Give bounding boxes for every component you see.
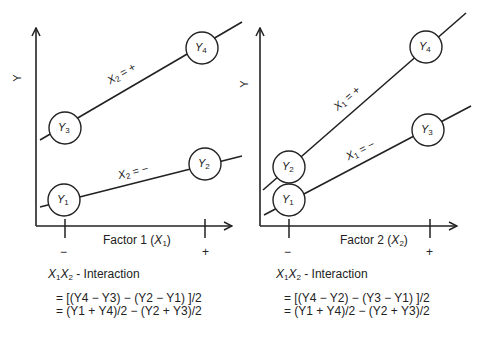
interaction-text: - Interaction bbox=[301, 267, 368, 281]
left-x-axis-label: Factor 1 (X1) bbox=[103, 233, 171, 248]
left-point-y3-label: Y3 bbox=[58, 121, 70, 135]
left-tick-plus-label: + bbox=[202, 245, 209, 259]
right-x-axis-label: Factor 2 (X2) bbox=[340, 233, 408, 248]
left-y-axis-label: Y bbox=[11, 74, 23, 81]
right-point-y1-label: Y1 bbox=[282, 193, 294, 207]
left-equation-1: = [(Y4 − Y3) − (Y2 − Y1) ]/2 bbox=[56, 291, 202, 305]
left-interaction-title: X1X2 - Interaction bbox=[48, 267, 140, 285]
x1-var: X bbox=[48, 267, 56, 281]
y-sub: 3 bbox=[428, 128, 432, 137]
y-sub: 1 bbox=[64, 198, 68, 207]
right-interaction-title: X1X2 - Interaction bbox=[276, 267, 368, 285]
y-sub: 1 bbox=[289, 198, 293, 207]
left-equation-2: = (Y1 + Y4)/2 − (Y2 + Y3)/2 bbox=[56, 304, 202, 318]
left-point-y2-label: Y2 bbox=[198, 157, 210, 171]
x-label-suffix: ) bbox=[404, 233, 408, 247]
x1-var: X bbox=[276, 267, 284, 281]
right-point-y2-label: Y2 bbox=[282, 160, 294, 174]
x-label-suffix: ) bbox=[167, 233, 171, 247]
x-label-prefix: Factor 1 ( bbox=[103, 233, 154, 247]
right-equation-2: = (Y1 + Y4)/2 − (Y2 + Y3)/2 bbox=[284, 304, 430, 318]
y-sub: 4 bbox=[202, 46, 206, 55]
interaction-text: - Interaction bbox=[73, 267, 140, 281]
left-tick-minus-label: − bbox=[60, 245, 67, 259]
y-sub: 2 bbox=[205, 162, 209, 171]
right-y-axis-label: Y bbox=[238, 80, 250, 87]
right-tick-minus-label: − bbox=[284, 245, 291, 259]
y-sub: 4 bbox=[426, 45, 430, 54]
interaction-plots bbox=[0, 0, 485, 339]
right-point-y4-label: Y4 bbox=[419, 40, 431, 54]
right-equation-1: = [(Y4 − Y2) − (Y3 − Y1) ]/2 bbox=[284, 291, 430, 305]
right-tick-plus-label: + bbox=[426, 245, 433, 259]
left-point-y1-label: Y1 bbox=[57, 193, 69, 207]
x-label-prefix: Factor 2 ( bbox=[340, 233, 391, 247]
right-point-y3-label: Y3 bbox=[421, 123, 433, 137]
y-sub: 2 bbox=[289, 165, 293, 174]
y-sub: 3 bbox=[65, 126, 69, 135]
left-point-y4-label: Y4 bbox=[195, 41, 207, 55]
